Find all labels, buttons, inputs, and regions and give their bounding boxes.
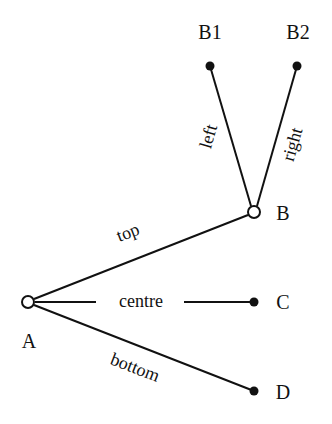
edge-label-centre: centre	[119, 291, 163, 311]
node-a	[22, 296, 34, 308]
node-d	[250, 387, 259, 396]
label-c: C	[276, 291, 289, 313]
label-d: D	[276, 381, 290, 403]
label-a: A	[22, 330, 37, 352]
node-b1	[206, 62, 215, 71]
label-b1: B1	[198, 21, 221, 43]
tree-diagram: A B C D B1 B2 top centre bottom left rig…	[0, 0, 332, 424]
node-b	[248, 206, 260, 218]
node-c	[250, 298, 259, 307]
edge-label-bottom: bottom	[108, 349, 163, 386]
node-b2	[293, 62, 302, 71]
label-b: B	[276, 202, 289, 224]
label-b2: B2	[286, 21, 309, 43]
edge-a-b	[34, 215, 248, 299]
edge-label-right: right	[278, 125, 307, 163]
edge-label-top: top	[114, 219, 143, 246]
edge-label-left: left	[195, 122, 221, 151]
